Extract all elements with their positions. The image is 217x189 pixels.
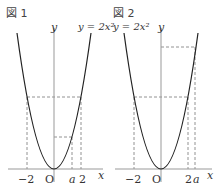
tick-2: 2 — [79, 174, 86, 185]
tick-a: a — [69, 174, 76, 185]
x-axis-label: x — [98, 170, 104, 181]
y-axis-label: y — [158, 22, 164, 33]
curve-label: y = 2x² — [113, 22, 149, 32]
origin-label: O — [45, 174, 54, 185]
tick-neg2: −2 — [125, 174, 141, 185]
figure-2: 図 2 y = 2x² y x −2 O 2 a — [107, 0, 215, 189]
figure-title: 図 1 — [6, 8, 28, 19]
tick-neg2: −2 — [18, 174, 34, 185]
y-axis-label: y — [51, 22, 57, 33]
figure-1: 図 1 y y = 2x² x −2 O a 2 — [0, 0, 108, 189]
origin-label: O — [152, 174, 161, 185]
tick-2: 2 — [185, 174, 192, 185]
tick-a: a — [193, 174, 200, 185]
figure-title: 図 2 — [113, 8, 135, 19]
x-axis-label: x — [207, 170, 213, 181]
